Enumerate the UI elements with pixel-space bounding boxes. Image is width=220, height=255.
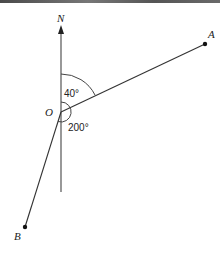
point-a-label: A — [207, 28, 215, 40]
origin-label: O — [45, 106, 53, 118]
north-arrow-icon — [58, 25, 64, 34]
line-oa — [61, 44, 205, 112]
point-a-dot — [203, 42, 207, 46]
angle-label-40: 40° — [64, 88, 79, 99]
angle-label-200: 200° — [68, 122, 89, 133]
line-ob — [25, 112, 61, 227]
point-b-label: B — [14, 230, 21, 242]
bearing-diagram: N O A B 40° 200° — [0, 0, 220, 255]
angle-arc-200 — [58, 102, 71, 122]
point-b-dot — [23, 225, 27, 229]
north-label: N — [56, 12, 65, 24]
